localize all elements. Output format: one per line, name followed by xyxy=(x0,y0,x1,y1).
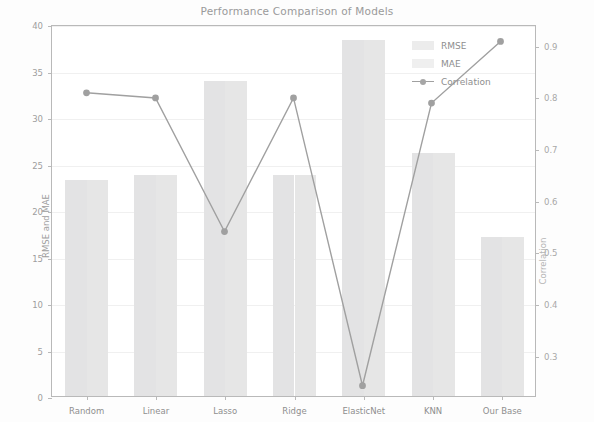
correlation-polyline xyxy=(87,41,501,385)
chart-title: Performance Comparison of Models xyxy=(0,5,594,17)
y-axis-right-tick-label: 0.9 xyxy=(544,42,558,52)
x-axis-tick-label: Random xyxy=(69,406,104,416)
legend-item-correlation: Correlation xyxy=(412,76,491,87)
y-axis-left-tick-label: 30 xyxy=(32,114,43,124)
y-axis-left-label: RMSE and MAE xyxy=(41,194,51,258)
tick-mark xyxy=(535,98,539,99)
x-axis-tick-label: Our Base xyxy=(483,406,522,416)
y-axis-right-tick-label: 0.6 xyxy=(544,197,558,207)
x-axis-tick-label: Lasso xyxy=(213,406,237,416)
correlation-marker-our-base xyxy=(497,38,504,45)
legend-item-mae: MAE xyxy=(412,58,491,69)
y-axis-right-label: Correlation xyxy=(538,238,548,285)
tick-mark xyxy=(364,396,365,400)
tick-mark xyxy=(48,259,52,260)
tick-mark xyxy=(48,73,52,74)
correlation-marker-linear xyxy=(152,95,159,102)
y-axis-left-tick-label: 0 xyxy=(38,393,43,403)
y-axis-left-tick-label: 25 xyxy=(32,161,43,171)
chart-figure: Performance Comparison of Models 0510152… xyxy=(0,0,594,422)
tick-mark xyxy=(48,166,52,167)
tick-mark xyxy=(48,26,52,27)
tick-mark xyxy=(502,396,503,400)
tick-mark xyxy=(433,396,434,400)
bar-swatch-icon xyxy=(412,41,434,50)
tick-mark xyxy=(535,47,539,48)
tick-mark xyxy=(48,398,52,399)
x-axis-tick-label: Ridge xyxy=(282,406,306,416)
y-axis-right-tick-label: 0.7 xyxy=(544,145,558,155)
y-axis-right-tick-label: 0.8 xyxy=(544,93,558,103)
correlation-marker-random xyxy=(83,89,90,96)
legend-item-rmse: RMSE xyxy=(412,40,491,51)
tick-mark xyxy=(48,305,52,306)
tick-mark xyxy=(87,396,88,400)
correlation-marker-elasticnet xyxy=(359,382,366,389)
tick-mark xyxy=(225,396,226,400)
x-axis-tick-label: KNN xyxy=(424,406,442,416)
tick-mark xyxy=(535,357,539,358)
y-axis-left-tick-label: 10 xyxy=(32,300,43,310)
tick-mark xyxy=(156,396,157,400)
correlation-marker-knn xyxy=(428,100,435,107)
tick-mark xyxy=(48,352,52,353)
y-axis-left-tick-label: 35 xyxy=(32,68,43,78)
y-axis-left-tick-label: 5 xyxy=(38,347,43,357)
tick-mark xyxy=(535,150,539,151)
legend-label: Correlation xyxy=(441,77,491,87)
correlation-marker-ridge xyxy=(290,95,297,102)
chart-legend: RMSE MAE Correlation xyxy=(412,40,491,87)
y-axis-left-tick-label: 40 xyxy=(32,21,43,31)
y-axis-right-tick-label: 0.3 xyxy=(544,352,558,362)
legend-label: RMSE xyxy=(441,41,466,51)
bar-swatch-icon xyxy=(412,59,434,68)
tick-mark xyxy=(48,119,52,120)
y-axis-right-tick-label: 0.4 xyxy=(544,300,558,310)
tick-mark xyxy=(535,202,539,203)
legend-label: MAE xyxy=(441,59,461,69)
x-axis-tick-label: ElasticNet xyxy=(342,406,385,416)
x-axis-tick-label: Linear xyxy=(143,406,169,416)
tick-mark xyxy=(535,305,539,306)
tick-mark xyxy=(295,396,296,400)
line-marker-icon xyxy=(412,77,434,86)
correlation-marker-lasso xyxy=(221,228,228,235)
